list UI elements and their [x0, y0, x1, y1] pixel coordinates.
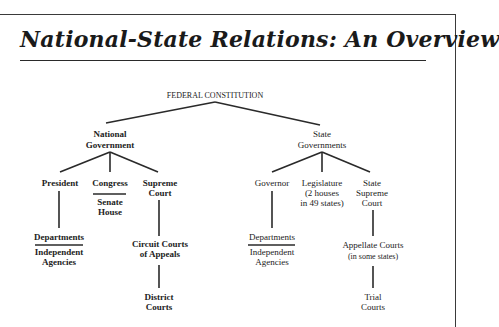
node-president: President	[42, 178, 78, 188]
node-national-government: National Government	[86, 129, 135, 150]
node-trial-courts: Trial Courts	[361, 292, 386, 312]
node-circuit-courts-of-appeals: Circuit Courts of Appeals	[132, 239, 189, 259]
svg-text:(in some states): (in some states)	[348, 252, 399, 261]
edge-constitution-state	[215, 102, 320, 125]
node-senate-house: Senate House	[97, 197, 123, 217]
svg-text:National: National	[93, 129, 127, 139]
svg-text:District: District	[145, 292, 174, 302]
node-federal-constitution: FEDERAL CONSTITUTION	[167, 91, 264, 100]
edge-national-supreme-court	[110, 152, 158, 172]
svg-text:Courts: Courts	[146, 302, 173, 312]
node-district-courts: District Courts	[145, 292, 174, 312]
svg-text:Court: Court	[362, 198, 383, 208]
svg-text:Governments: Governments	[298, 140, 347, 150]
edge-state-supreme-court	[322, 152, 370, 172]
edge-state-governor	[272, 152, 322, 172]
svg-text:Agencies: Agencies	[42, 257, 76, 267]
svg-text:Agencies: Agencies	[255, 257, 289, 267]
node-state-supreme-court: State Supreme Court	[356, 178, 388, 208]
svg-text:State: State	[363, 178, 381, 188]
node-federal-independent-agencies: Independent Agencies	[35, 247, 84, 267]
svg-text:of Appeals: of Appeals	[140, 249, 181, 259]
svg-text:Supreme: Supreme	[143, 178, 177, 188]
node-supreme-court: Supreme Court	[143, 178, 177, 198]
svg-text:in 49 states): in 49 states)	[300, 198, 344, 208]
svg-text:Trial: Trial	[364, 292, 382, 302]
svg-text:House: House	[98, 207, 122, 217]
svg-text:Senate: Senate	[97, 197, 123, 207]
node-state-departments: Departments	[249, 232, 295, 242]
svg-text:Court: Court	[149, 188, 172, 198]
svg-text:Courts: Courts	[361, 302, 386, 312]
node-governor: Governor	[255, 178, 290, 188]
svg-text:Legislature: Legislature	[302, 178, 342, 188]
svg-text:(2 houses: (2 houses	[305, 188, 340, 198]
node-state-independent-agencies: Independent Agencies	[250, 247, 295, 267]
node-congress: Congress	[92, 178, 128, 188]
svg-text:Government: Government	[86, 140, 135, 150]
svg-text:State: State	[313, 129, 331, 139]
svg-text:Supreme: Supreme	[356, 188, 388, 198]
svg-text:Independent: Independent	[250, 247, 295, 257]
node-federal-departments: Departments	[34, 232, 84, 242]
node-legislature: Legislature (2 houses in 49 states)	[300, 178, 344, 208]
node-appellate-courts: Appellate Courts (in some states)	[342, 240, 404, 261]
node-state-governments: State Governments	[298, 129, 347, 150]
edge-national-president	[60, 152, 110, 172]
svg-text:Independent: Independent	[35, 247, 84, 257]
edge-constitution-national	[106, 102, 215, 123]
svg-text:Appellate Courts: Appellate Courts	[342, 240, 404, 250]
svg-text:Circuit Courts: Circuit Courts	[132, 239, 189, 249]
